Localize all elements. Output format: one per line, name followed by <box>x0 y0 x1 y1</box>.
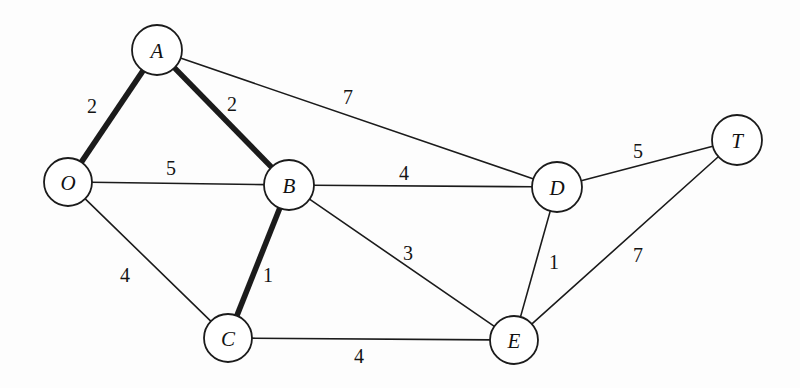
node-b[interactable]: B <box>264 160 314 210</box>
node-c[interactable]: C <box>204 314 252 362</box>
edge-weight-e-t: 7 <box>633 244 643 266</box>
edge-a-d <box>180 58 535 179</box>
edge-weight-a-d: 7 <box>343 86 353 108</box>
edges-layer <box>81 58 719 340</box>
node-label-b: B <box>283 174 296 198</box>
graph-diagram: AOBCDET 227545413174 <box>0 0 800 388</box>
edge-weight-c-e: 4 <box>354 345 364 367</box>
edge-weight-o-a: 2 <box>87 95 97 117</box>
node-label-c: C <box>221 327 236 351</box>
node-label-e: E <box>507 329 521 353</box>
edge-b-e <box>309 199 495 327</box>
edge-weight-d-e: 1 <box>549 251 559 273</box>
edge-weight-o-b: 5 <box>166 157 176 179</box>
graph-canvas: AOBCDET 227545413174 <box>0 0 800 388</box>
edge-weight-d-t: 5 <box>633 140 643 162</box>
node-label-t: T <box>731 129 744 153</box>
edge-d-t <box>580 146 714 181</box>
edge-weight-b-d: 4 <box>399 162 409 184</box>
edge-o-b <box>91 182 265 184</box>
node-label-a: A <box>149 39 164 63</box>
node-label-o: O <box>60 171 75 195</box>
node-a[interactable]: A <box>132 25 182 75</box>
node-e[interactable]: E <box>490 316 538 364</box>
edge-b-c <box>237 207 281 316</box>
edge-weight-b-c: 1 <box>263 264 273 286</box>
node-t[interactable]: T <box>712 115 762 165</box>
node-o[interactable]: O <box>44 158 92 206</box>
edge-weight-o-c: 4 <box>120 264 130 286</box>
nodes-layer: AOBCDET <box>44 25 762 364</box>
edge-b-d <box>313 185 533 187</box>
edge-a-b <box>174 67 272 168</box>
node-label-d: D <box>548 176 564 200</box>
edge-d-e <box>520 210 550 318</box>
edge-c-e <box>251 338 491 340</box>
node-d[interactable]: D <box>532 162 582 212</box>
edge-o-c <box>84 198 211 322</box>
edge-weight-b-e: 3 <box>403 242 413 264</box>
edge-weights-layer: 227545413174 <box>87 86 643 367</box>
edge-weight-a-b: 2 <box>227 93 237 115</box>
